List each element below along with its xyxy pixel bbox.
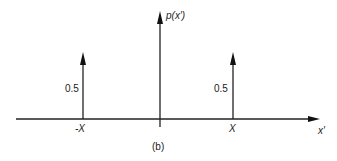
x-axis-arrowhead — [308, 116, 320, 122]
y-axis-arrowhead — [157, 11, 163, 24]
impulse-left — [80, 52, 86, 119]
impulse-right-position-label: X — [228, 123, 236, 134]
impulse-left-height-label: 0.5 — [65, 83, 79, 94]
y-axis-label: p(x′) — [165, 10, 185, 21]
figure-caption: (b) — [152, 141, 164, 152]
impulse-right-height-label: 0.5 — [214, 83, 228, 94]
x-axis-label: x′ — [317, 125, 326, 136]
impulse-right — [230, 52, 236, 119]
impulse-right-arrowhead — [230, 52, 236, 65]
impulse-left-position-label: -X — [75, 123, 85, 134]
probability-density-diagram: p(x′) x′ 0.5 0.5 -X X (b) — [0, 0, 337, 161]
impulse-left-arrowhead — [80, 52, 86, 65]
